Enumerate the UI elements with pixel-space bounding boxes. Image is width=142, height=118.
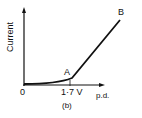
- y-axis: [22, 7, 26, 86]
- y-axis-label: Current: [5, 22, 15, 52]
- threshold-label: 1·7 V: [61, 88, 83, 97]
- caption: (b): [62, 101, 72, 110]
- iv-curve: [24, 20, 120, 84]
- x-axis-label: p.d.: [96, 91, 109, 100]
- origin-label: 0: [20, 88, 25, 97]
- x-axis-arrow-icon: [99, 83, 105, 87]
- point-a-label: A: [64, 68, 70, 77]
- point-b-label: B: [118, 8, 124, 17]
- y-axis-arrow-icon: [22, 7, 26, 13]
